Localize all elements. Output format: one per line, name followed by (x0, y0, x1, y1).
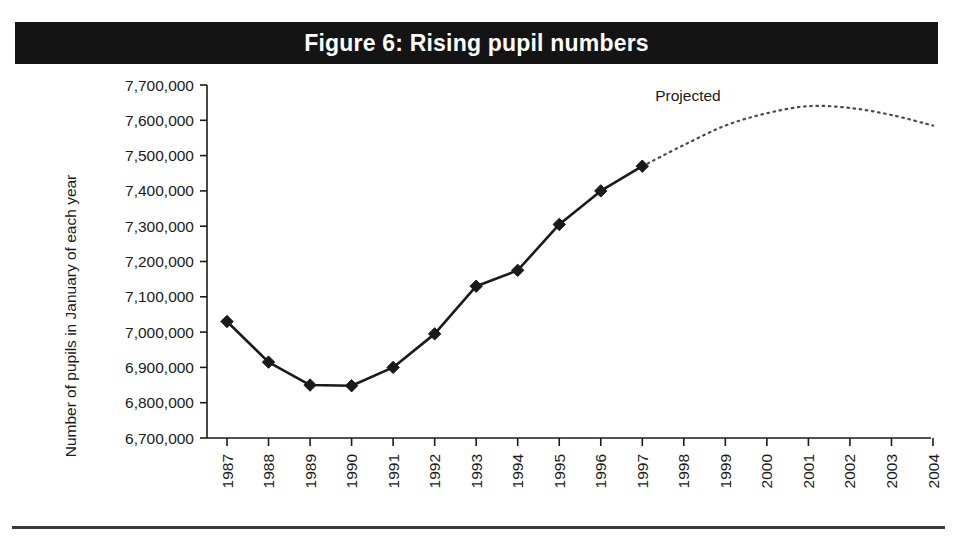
series-line-actual (227, 166, 642, 386)
y-tick-label: 7,700,000 (125, 77, 194, 94)
x-tick-label: 2003 (883, 454, 900, 488)
y-tick-label: 6,700,000 (125, 430, 194, 447)
series-line-projected (642, 106, 933, 166)
y-tick-label: 7,600,000 (125, 112, 194, 129)
y-tick-label: 7,500,000 (125, 147, 194, 164)
x-tick-label: 1999 (717, 454, 734, 488)
x-tick-label: 1987 (219, 454, 236, 488)
y-tick-label: 7,100,000 (125, 288, 194, 305)
y-tick-label: 7,200,000 (125, 253, 194, 270)
annotation-projected-label: Projected (655, 87, 720, 104)
x-tick-label: 2002 (841, 454, 858, 488)
x-tick-label: 1994 (509, 454, 526, 489)
x-tick-label: 1990 (343, 454, 360, 489)
figure-title-band: Figure 6: Rising pupil numbers (15, 22, 938, 64)
data-point-marker (636, 160, 648, 172)
x-tick-label: 1989 (302, 454, 319, 488)
y-tick-label: 7,300,000 (125, 218, 194, 235)
chart-annotations: Projected (655, 87, 720, 104)
x-tick-label: 1991 (385, 454, 402, 488)
data-point-marker (345, 380, 357, 392)
x-tick-label: 2000 (758, 454, 775, 489)
figure-container: Figure 6: Rising pupil numbers 7,700,000… (0, 0, 955, 540)
x-tick-label: 1995 (551, 454, 568, 488)
data-point-marker (304, 379, 316, 391)
x-tick-label: 1998 (675, 454, 692, 488)
y-tick-label: 6,900,000 (125, 359, 194, 376)
x-tick-label: 2001 (800, 454, 817, 488)
data-point-markers (221, 160, 649, 392)
line-chart-svg: 7,700,0007,600,0007,500,0007,400,0007,30… (0, 64, 955, 529)
x-tick-label: 2004 (925, 454, 942, 489)
y-axis-title: Number of pupils in January of each year (62, 146, 80, 486)
y-tick-label: 7,000,000 (125, 324, 194, 341)
y-tick-label: 6,800,000 (125, 394, 194, 411)
x-tick-label: 1996 (592, 454, 609, 488)
chart-plot-area: 7,700,0007,600,0007,500,0007,400,0007,30… (0, 64, 955, 529)
x-tick-label: 1993 (468, 454, 485, 488)
x-tick-label: 1988 (260, 454, 277, 488)
x-tick-label: 1997 (634, 454, 651, 488)
bottom-divider (12, 526, 945, 529)
y-axis-ticks: 7,700,0007,600,0007,500,0007,400,0007,30… (125, 77, 207, 447)
x-axis-ticks: 1987198819891990199119921993199419951996… (219, 438, 942, 488)
y-tick-label: 7,400,000 (125, 182, 194, 199)
page-title: Figure 6: Rising pupil numbers (304, 30, 649, 57)
x-tick-label: 1992 (426, 454, 443, 488)
